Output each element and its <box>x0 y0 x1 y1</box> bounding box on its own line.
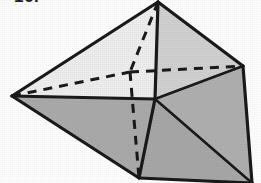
figure-caption-number: 16. <box>14 0 39 5</box>
figure-container: 16. <box>0 0 261 183</box>
polyhedron-diagram <box>0 0 261 183</box>
